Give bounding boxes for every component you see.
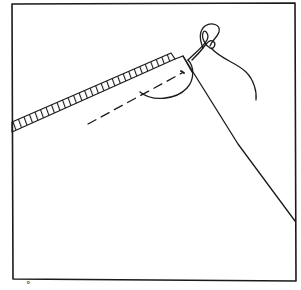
- dashed-stitch-line: [88, 73, 182, 124]
- caption-glyph: °: [26, 281, 31, 290]
- needle-line: [183, 56, 295, 221]
- frame-border: [12, 3, 296, 281]
- thread-tail: [211, 48, 256, 100]
- sewing-illustration: [0, 0, 301, 290]
- hatched-hem-edge: [12, 53, 175, 132]
